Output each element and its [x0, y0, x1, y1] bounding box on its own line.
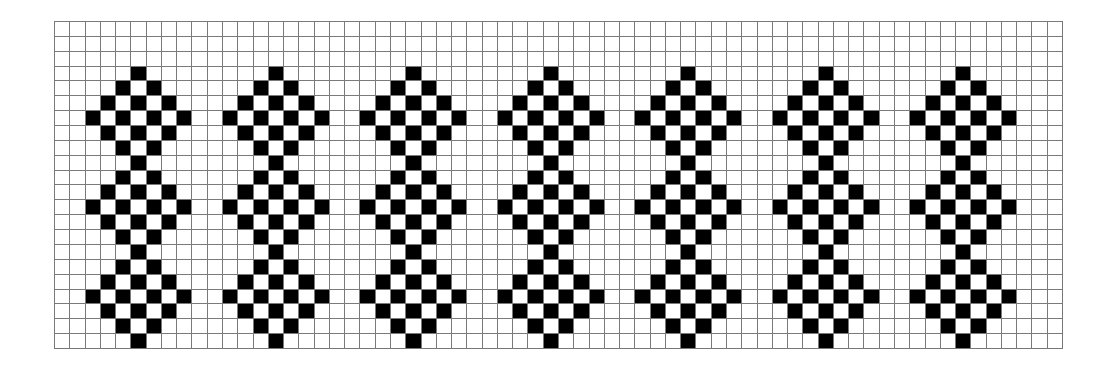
empty-cell	[909, 125, 924, 140]
empty-cell	[482, 66, 497, 81]
empty-cell	[436, 80, 451, 95]
empty-cell	[543, 229, 558, 244]
empty-cell	[283, 155, 298, 170]
empty-cell	[604, 21, 619, 36]
empty-cell	[161, 51, 176, 66]
empty-cell	[604, 303, 619, 318]
filled-cell	[436, 125, 451, 140]
empty-cell	[863, 155, 878, 170]
empty-cell	[54, 318, 69, 333]
empty-cell	[711, 21, 726, 36]
empty-cell	[69, 66, 84, 81]
empty-cell	[329, 244, 344, 259]
empty-cell	[207, 170, 222, 185]
empty-cell	[54, 36, 69, 51]
empty-cell	[757, 289, 772, 304]
empty-cell	[512, 244, 527, 259]
empty-cell	[573, 229, 588, 244]
empty-cell	[1001, 184, 1016, 199]
empty-cell	[482, 155, 497, 170]
empty-cell	[100, 229, 115, 244]
empty-cell	[879, 66, 894, 81]
empty-cell	[314, 80, 329, 95]
empty-cell	[176, 303, 191, 318]
empty-cell	[650, 110, 665, 125]
empty-cell	[772, 274, 787, 289]
filled-cell	[940, 229, 955, 244]
empty-cell	[85, 303, 100, 318]
filled-cell	[512, 184, 527, 199]
empty-cell	[986, 155, 1001, 170]
empty-cell	[405, 36, 420, 51]
filled-cell	[650, 125, 665, 140]
empty-cell	[451, 140, 466, 155]
empty-cell	[1031, 95, 1046, 110]
empty-cell	[222, 66, 237, 81]
empty-cell	[268, 170, 283, 185]
empty-cell	[757, 259, 772, 274]
empty-cell	[85, 170, 100, 185]
empty-cell	[1001, 155, 1016, 170]
filled-cell	[375, 274, 390, 289]
empty-cell	[848, 199, 863, 214]
empty-cell	[54, 125, 69, 140]
empty-cell	[543, 80, 558, 95]
empty-cell	[970, 95, 985, 110]
empty-cell	[283, 66, 298, 81]
empty-cell	[1016, 199, 1031, 214]
empty-cell	[69, 155, 84, 170]
empty-cell	[787, 140, 802, 155]
filled-cell	[543, 333, 558, 348]
filled-cell	[176, 289, 191, 304]
empty-cell	[482, 110, 497, 125]
filled-cell	[161, 274, 176, 289]
empty-cell	[573, 259, 588, 274]
empty-cell	[772, 170, 787, 185]
empty-cell	[1016, 36, 1031, 51]
empty-cell	[604, 244, 619, 259]
filled-cell	[787, 274, 802, 289]
empty-cell	[1001, 318, 1016, 333]
empty-cell	[329, 333, 344, 348]
empty-cell	[1001, 140, 1016, 155]
empty-cell	[970, 244, 985, 259]
empty-cell	[711, 170, 726, 185]
filled-cell	[772, 110, 787, 125]
empty-cell	[207, 244, 222, 259]
empty-cell	[283, 274, 298, 289]
filled-cell	[955, 184, 970, 199]
filled-cell	[726, 110, 741, 125]
empty-cell	[802, 274, 817, 289]
empty-cell	[69, 289, 84, 304]
empty-cell	[879, 21, 894, 36]
empty-cell	[191, 125, 206, 140]
empty-cell	[253, 21, 268, 36]
empty-cell	[375, 333, 390, 348]
empty-cell	[405, 318, 420, 333]
empty-cell	[497, 21, 512, 36]
empty-cell	[497, 36, 512, 51]
empty-cell	[1031, 80, 1046, 95]
filled-cell	[130, 244, 145, 259]
empty-cell	[833, 214, 848, 229]
empty-cell	[527, 125, 542, 140]
empty-cell	[69, 274, 84, 289]
empty-cell	[466, 125, 481, 140]
filled-cell	[298, 184, 313, 199]
empty-cell	[925, 66, 940, 81]
filled-cell	[955, 155, 970, 170]
empty-cell	[69, 214, 84, 229]
empty-cell	[1001, 51, 1016, 66]
filled-cell	[940, 80, 955, 95]
empty-cell	[863, 80, 878, 95]
empty-cell	[390, 66, 405, 81]
empty-cell	[848, 36, 863, 51]
filled-cell	[115, 140, 130, 155]
filled-cell	[772, 199, 787, 214]
empty-cell	[344, 125, 359, 140]
empty-cell	[955, 21, 970, 36]
empty-cell	[405, 199, 420, 214]
filled-cell	[237, 274, 252, 289]
empty-cell	[757, 199, 772, 214]
empty-cell	[772, 333, 787, 348]
